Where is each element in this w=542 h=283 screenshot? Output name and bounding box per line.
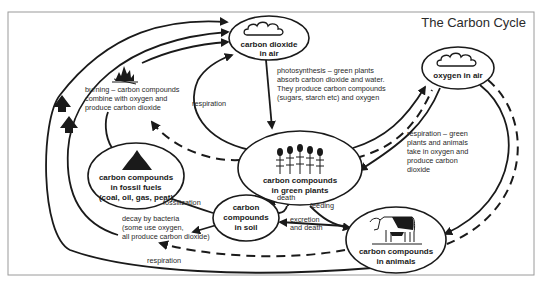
- svg-text:plants and animals: plants and animals: [407, 138, 468, 147]
- svg-text:produce carbon dioxide: produce carbon dioxide: [85, 103, 161, 112]
- svg-text:(some use oxygen,: (some use oxygen,: [122, 223, 184, 232]
- label-respiration-plants: respiration: [192, 99, 226, 108]
- svg-text:carbon dioxide: carbon dioxide: [241, 40, 298, 49]
- svg-text:in soil: in soil: [234, 223, 257, 232]
- svg-text:They produce carbon compounds: They produce carbon compounds: [277, 84, 386, 93]
- svg-text:in fossil fuels: in fossil fuels: [110, 183, 162, 192]
- svg-text:oxygen in air: oxygen in air: [433, 71, 482, 80]
- carbon-cycle-diagram: The Carbon Cycle carbon dioxide in a: [0, 0, 542, 283]
- diagram-title: The Carbon Cycle: [421, 15, 526, 30]
- svg-text:absorb carbon dioxide and wate: absorb carbon dioxide and water.: [277, 75, 385, 84]
- svg-text:burning – carbon compounds: burning – carbon compounds: [85, 85, 180, 94]
- label-respiration-animals: respiration: [147, 256, 181, 265]
- node-co2-in-air: carbon dioxide in air: [229, 16, 309, 60]
- label-death: death: [277, 193, 295, 202]
- svg-text:photosynthesis – green plants: photosynthesis – green plants: [277, 66, 374, 75]
- svg-text:compounds: compounds: [223, 213, 269, 222]
- svg-text:dioxide: dioxide: [407, 165, 430, 174]
- node-animals: carbon compounds in animals: [346, 207, 446, 273]
- svg-text:in animals: in animals: [376, 257, 416, 266]
- svg-text:carbon: carbon: [233, 203, 260, 212]
- svg-text:combine with oxygen and: combine with oxygen and: [85, 94, 167, 103]
- node-soil: carbon compounds in soil: [213, 195, 279, 241]
- svg-text:and death: and death: [290, 223, 322, 232]
- svg-text:produce carbon: produce carbon: [407, 156, 458, 165]
- svg-text:take in oxygen and: take in oxygen and: [407, 147, 468, 156]
- svg-text:carbon compounds: carbon compounds: [359, 247, 434, 256]
- svg-text:respiration – green: respiration – green: [407, 129, 468, 138]
- svg-text:(sugars, starch etc) and oxyge: (sugars, starch etc) and oxygen: [277, 93, 379, 102]
- node-oxygen-in-air: oxygen in air: [422, 47, 494, 89]
- svg-text:carbon compounds: carbon compounds: [99, 173, 174, 182]
- svg-text:in air: in air: [259, 49, 278, 58]
- node-green-plants: carbon compounds in green plants: [238, 131, 362, 205]
- svg-text:all produce carbon dioxide): all produce carbon dioxide): [122, 232, 210, 241]
- svg-text:carbon compounds: carbon compounds: [263, 176, 338, 185]
- svg-text:decay by bacteria: decay by bacteria: [122, 214, 180, 223]
- label-fossilization: fossilization: [163, 198, 201, 207]
- label-feeding: feeding: [310, 201, 334, 210]
- annotation-photosynthesis: photosynthesis – green plants absorb car…: [277, 66, 386, 102]
- annotation-excretion: excretion and death: [290, 215, 322, 232]
